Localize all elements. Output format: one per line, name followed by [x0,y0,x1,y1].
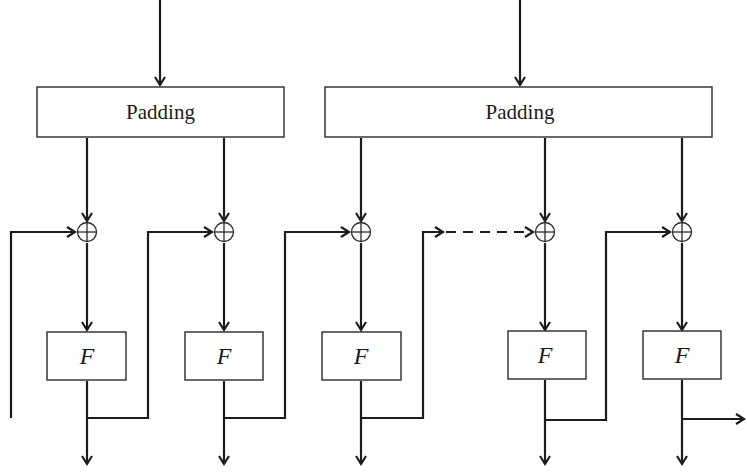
f-label-1: F [79,343,95,369]
padding-label-1: Padding [126,100,195,124]
padding-box-2: Padding [325,87,712,137]
initial-feedback-arrow [11,232,75,418]
xor-icon [352,223,371,242]
xor-icon [536,223,555,242]
feedback-arrow-3 [361,232,443,418]
feedback-arrow-4 [545,232,670,420]
f-box-5: F [643,331,721,379]
xor-icon [78,223,97,242]
f-box-4: F [508,331,586,379]
xor-icon [215,223,234,242]
padding-label-2: Padding [486,100,555,124]
f-box-3: F [322,332,401,380]
f-label-3: F [353,343,369,369]
f-box-1: F [47,332,126,380]
feedback-arrow-1 [87,232,212,418]
xor-icon [673,223,692,242]
f-label-4: F [537,342,553,368]
f-label-5: F [674,342,690,368]
cipher-chain-diagram: Padding Padding F F F F [0,0,747,472]
f-box-2: F [185,332,263,380]
padding-box-1: Padding [37,87,284,137]
f-label-2: F [216,343,232,369]
feedback-arrow-2 [224,232,349,418]
